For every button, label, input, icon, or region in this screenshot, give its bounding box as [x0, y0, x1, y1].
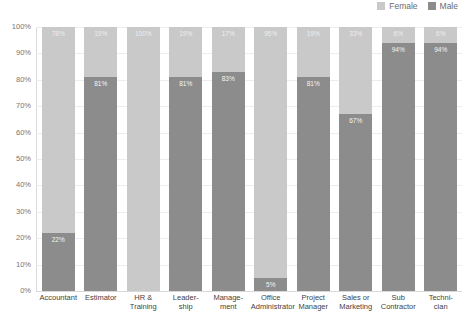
legend-item-female[interactable]: Female: [377, 2, 417, 11]
bar-segment-female-label: 95%: [264, 27, 277, 38]
bar-segment-male-label: 67%: [349, 114, 362, 125]
bar-segment-female[interactable]: 6%: [424, 27, 457, 43]
bar-segment-female-label: 100%: [135, 27, 152, 38]
plot-area: 100% 90% 80% 70% 60% 50% 40% 30% 20% 10%…: [36, 27, 462, 291]
bar-column-estimator[interactable]: 19% 81%: [84, 27, 117, 291]
ytick-20: 20%: [16, 234, 31, 242]
bar-segment-female[interactable]: 33%: [339, 27, 372, 114]
bar-series-container: 78% 22% 19% 81% 100% 19% 81% 17% 83% 95%: [37, 27, 462, 291]
bar-segment-male[interactable]: 83%: [212, 72, 245, 291]
legend-swatch-female-icon: [377, 2, 385, 10]
x-label-management: Manage- ment: [208, 293, 248, 311]
bar-segment-male-label: 81%: [94, 77, 107, 88]
bar-segment-male-label: 83%: [222, 72, 235, 83]
bar-column-technician[interactable]: 6% 94%: [424, 27, 457, 291]
bar-segment-male[interactable]: 94%: [424, 43, 457, 291]
bar-column-management[interactable]: 17% 83%: [212, 27, 245, 291]
x-label-technician: Techni- cian: [421, 293, 461, 311]
ytick-60: 60%: [16, 129, 31, 137]
bar-segment-female-label: 19%: [94, 27, 107, 38]
bar-segment-female-label: 17%: [222, 27, 235, 38]
ytick-100: 100%: [12, 23, 31, 31]
ytick-90: 90%: [16, 50, 31, 58]
bar-column-sub-contractor[interactable]: 6% 94%: [382, 27, 415, 291]
bar-segment-male[interactable]: 81%: [297, 77, 330, 291]
bar-column-leadership[interactable]: 19% 81%: [169, 27, 202, 291]
bar-segment-male[interactable]: 94%: [382, 43, 415, 291]
x-label-estimator: Estimator: [81, 293, 121, 302]
ytick-40: 40%: [16, 182, 31, 190]
bar-segment-female[interactable]: 17%: [212, 27, 245, 72]
bar-segment-male[interactable]: 81%: [84, 77, 117, 291]
bar-segment-male-label: 5%: [266, 278, 275, 289]
legend-item-male[interactable]: Male: [428, 2, 458, 11]
x-label-sub-contractor: Sub Contractor: [378, 293, 418, 311]
bar-segment-female-label: 78%: [52, 27, 65, 38]
bar-segment-male[interactable]: 67%: [339, 114, 372, 291]
bar-segment-male-label: 81%: [179, 77, 192, 88]
x-label-accountant: Accountant: [38, 293, 78, 302]
bar-segment-male-label: 94%: [392, 43, 405, 54]
legend-label-female: Female: [389, 2, 417, 11]
legend-label-male: Male: [440, 2, 458, 11]
chart-legend: Female Male: [377, 2, 458, 11]
bar-segment-female[interactable]: 6%: [382, 27, 415, 43]
x-label-leadership: Leader- ship: [166, 293, 206, 311]
x-axis-labels: Accountant Estimator HR & Training Leade…: [37, 293, 462, 321]
stacked-bar-chart: Female Male 100% 90% 80% 70% 60% 50% 40%…: [0, 0, 466, 323]
bar-segment-female[interactable]: 19%: [84, 27, 117, 77]
bar-column-accountant[interactable]: 78% 22%: [42, 27, 75, 291]
x-label-project-manager: Project Manager: [293, 293, 333, 311]
ytick-30: 30%: [16, 208, 31, 216]
x-label-sales-or-marketing: Sales or Marketing: [336, 293, 376, 311]
bar-column-hr-training[interactable]: 100%: [127, 27, 160, 291]
ytick-70: 70%: [16, 102, 31, 110]
gridline-0: [36, 291, 462, 292]
bar-segment-male[interactable]: 81%: [169, 77, 202, 291]
bar-segment-female-label: 6%: [394, 27, 403, 38]
bar-segment-female-label: 19%: [179, 27, 192, 38]
bar-column-project-manager[interactable]: 19% 81%: [297, 27, 330, 291]
ytick-10: 10%: [16, 261, 31, 269]
bar-segment-male[interactable]: 5%: [254, 278, 287, 291]
bar-segment-female-label: 33%: [349, 27, 362, 38]
x-label-office-administrator: Office Administrator: [251, 293, 291, 311]
bar-segment-male-label: 22%: [52, 233, 65, 244]
bar-segment-female[interactable]: 95%: [254, 27, 287, 278]
bar-column-sales-or-marketing[interactable]: 33% 67%: [339, 27, 372, 291]
ytick-50: 50%: [16, 155, 31, 163]
bar-segment-female[interactable]: 100%: [127, 27, 160, 291]
bar-segment-male-label: 94%: [434, 43, 447, 54]
bar-segment-female[interactable]: 19%: [169, 27, 202, 77]
bar-segment-male[interactable]: 22%: [42, 233, 75, 291]
bar-segment-female[interactable]: 78%: [42, 27, 75, 233]
bar-segment-female[interactable]: 19%: [297, 27, 330, 77]
bar-column-office-administrator[interactable]: 95% 5%: [254, 27, 287, 291]
ytick-80: 80%: [16, 76, 31, 84]
bar-segment-male-label: 81%: [307, 77, 320, 88]
bar-segment-female-label: 19%: [307, 27, 320, 38]
bar-segment-female-label: 6%: [436, 27, 445, 38]
legend-swatch-male-icon: [428, 2, 436, 10]
x-label-hr-training: HR & Training: [123, 293, 163, 311]
ytick-0: 0%: [20, 287, 31, 295]
